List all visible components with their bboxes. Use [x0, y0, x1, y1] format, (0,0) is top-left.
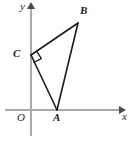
point-label-c: C: [13, 48, 20, 59]
x-axis-label: x: [122, 111, 127, 122]
origin-label: O: [17, 112, 25, 123]
y-axis-label: y: [20, 1, 25, 12]
point-label-a: A: [53, 112, 60, 123]
point-label-b: B: [80, 5, 87, 16]
segment-ca: [31, 55, 57, 110]
y-axis-arrowhead: [27, 2, 35, 9]
geometry-figure: B C A y x O: [0, 0, 132, 142]
